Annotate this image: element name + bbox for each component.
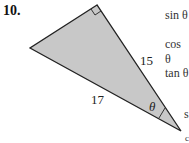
sin-label: sin θ bbox=[165, 8, 188, 23]
hypotenuse-label-17: 17 bbox=[91, 92, 105, 107]
cos-label: cos θ bbox=[165, 37, 189, 67]
triangle-figure: 15 17 θ bbox=[0, 0, 189, 143]
cutoff-text-s: s bbox=[184, 107, 189, 122]
angle-label-theta: θ bbox=[149, 99, 156, 114]
cutoff-text-c: c bbox=[185, 133, 189, 143]
triangle bbox=[30, 5, 181, 131]
tan-label: tan θ bbox=[165, 66, 188, 81]
side-label-15: 15 bbox=[140, 53, 153, 68]
